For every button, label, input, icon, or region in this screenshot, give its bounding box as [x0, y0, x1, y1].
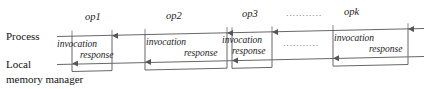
op3-response-label: response — [232, 47, 265, 57]
ellipsis-top: ··········· — [286, 12, 322, 20]
axis-label-local: Local — [6, 59, 31, 70]
op3-service-interval — [232, 60, 272, 68]
ellipsis-middle: ··········· — [283, 42, 319, 50]
op-label-op1: op1 — [85, 12, 101, 23]
op1-invocation-label: invocation — [57, 40, 97, 50]
op-label-opk: opk — [344, 7, 359, 18]
op1-service-interval — [72, 63, 112, 71]
op2-invocation-label: invocation — [146, 38, 186, 48]
opk-response-label: response — [369, 45, 402, 55]
op2-response-label: response — [184, 49, 217, 59]
axis-label-process: Process — [6, 31, 40, 42]
op3-invocation-label: invocation — [222, 36, 262, 46]
op-label-op2: op2 — [166, 11, 182, 22]
opk-invocation-label: invocation — [334, 34, 374, 44]
op-label-op3: op3 — [242, 9, 258, 20]
axis-label-memory-manager: memory manager — [6, 74, 83, 85]
op1-response-label: response — [80, 51, 113, 61]
figure-timeline-diagram: Process Local memory manager op1 op2 op3… — [0, 0, 427, 89]
